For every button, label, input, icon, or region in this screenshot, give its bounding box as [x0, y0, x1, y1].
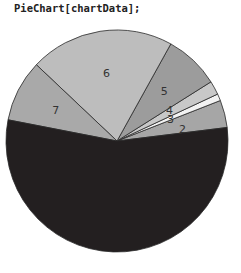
pie-label-7: 7: [52, 104, 59, 117]
pie-chart: 234567: [0, 0, 241, 273]
pie-label-4: 4: [166, 104, 173, 117]
pie-label-2: 2: [179, 123, 186, 136]
pie-slices: [6, 30, 228, 252]
pie-label-5: 5: [161, 85, 168, 98]
pie-label-6: 6: [103, 67, 110, 80]
